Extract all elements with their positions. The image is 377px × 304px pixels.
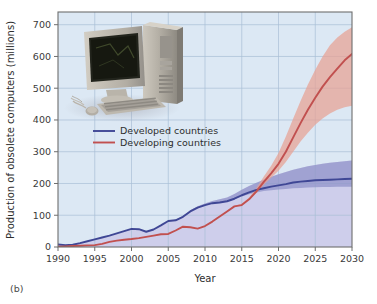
legend-label-1: Developing countries bbox=[120, 137, 221, 148]
legend-label-0: Developed countries bbox=[120, 125, 218, 136]
x-tick-label: 2015 bbox=[230, 253, 254, 264]
x-tick-label: 2025 bbox=[303, 253, 327, 264]
x-tick-label: 2030 bbox=[340, 253, 364, 264]
y-axis-title: Production of obsolete computers (millio… bbox=[5, 21, 16, 239]
y-tick-label: 400 bbox=[33, 114, 51, 125]
y-tick-label: 300 bbox=[33, 146, 51, 157]
y-tick-label: 700 bbox=[33, 19, 51, 30]
y-tick-label: 600 bbox=[33, 51, 51, 62]
panel-label: (b) bbox=[10, 283, 23, 294]
y-tick-label: 0 bbox=[45, 241, 51, 252]
y-tick-label: 200 bbox=[33, 178, 51, 189]
figure-panel-b: 199019952000200520102015202020252030 010… bbox=[0, 0, 377, 304]
y-tick-label: 500 bbox=[33, 83, 51, 94]
x-tick-label: 1990 bbox=[46, 253, 70, 264]
x-tick-label: 1995 bbox=[83, 253, 107, 264]
x-tick-label: 2000 bbox=[119, 253, 143, 264]
x-tick-label: 2005 bbox=[156, 253, 180, 264]
x-tick-label: 2010 bbox=[193, 253, 217, 264]
x-tick-label: 2020 bbox=[266, 253, 290, 264]
obsolete-computers-chart: 199019952000200520102015202020252030 010… bbox=[0, 0, 377, 304]
y-tick-label: 100 bbox=[33, 210, 51, 221]
x-axis-title: Year bbox=[193, 273, 216, 284]
